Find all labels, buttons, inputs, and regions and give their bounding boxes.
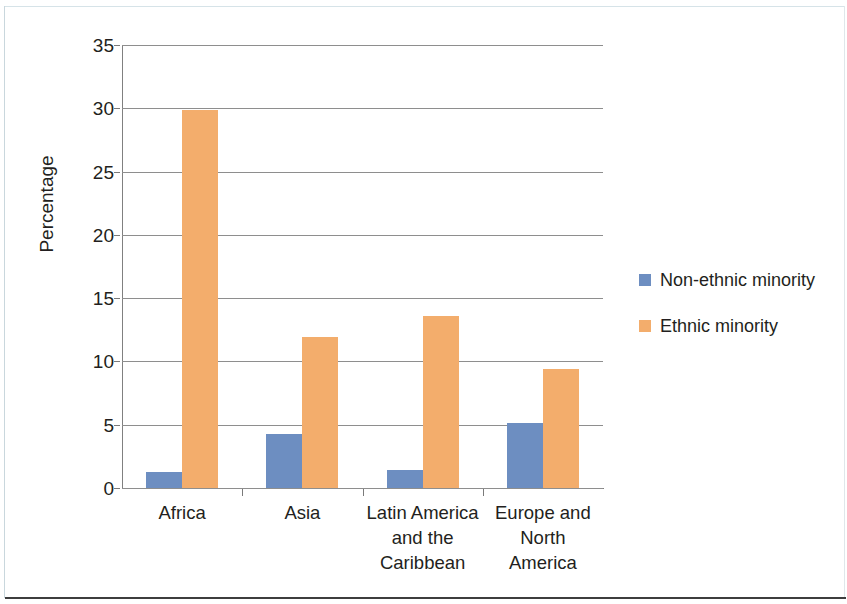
x-axis-category-label-line: North: [483, 525, 603, 550]
gridline: [122, 45, 603, 46]
x-axis-category-label-line: Africa: [122, 500, 242, 525]
x-axis-category-label-line: Latin America: [363, 500, 483, 525]
page-edge-right: [844, 6, 845, 598]
legend-label: Ethnic minority: [660, 316, 778, 337]
y-axis-tick-mark: [114, 298, 120, 299]
y-axis-tick-label: 0: [103, 479, 114, 498]
x-axis-category-label-line: and the: [363, 525, 483, 550]
bar: [543, 369, 579, 488]
legend-item: Ethnic minority: [639, 315, 839, 337]
x-axis-tick-mark: [363, 489, 364, 496]
x-axis-tick-mark: [483, 489, 484, 496]
bar: [182, 110, 218, 488]
y-axis-tick-mark: [114, 45, 120, 46]
y-axis-tick-label: 30: [93, 99, 114, 118]
bar: [302, 337, 338, 488]
y-axis-tick-mark: [114, 108, 120, 109]
x-axis-category-label-line: America: [483, 550, 603, 575]
legend-label: Non-ethnic minority: [660, 270, 815, 291]
x-axis-category-label: Asia: [242, 500, 362, 525]
bar: [423, 316, 459, 488]
plot-area: [122, 45, 603, 488]
x-axis-category-label: Europe andNorthAmerica: [483, 500, 603, 575]
y-axis-tick-label: 20: [93, 225, 114, 244]
x-axis-category-label-line: Asia: [242, 500, 362, 525]
page-edge-top: [5, 6, 845, 7]
x-axis-category-label: Latin Americaand theCaribbean: [363, 500, 483, 575]
y-axis-tick-mark: [114, 361, 120, 362]
y-axis-tick-label: 10: [93, 352, 114, 371]
y-axis-tick-label: 35: [93, 36, 114, 55]
x-axis-category-label-line: Caribbean: [363, 550, 483, 575]
y-axis-title: Percentage: [36, 134, 58, 274]
bar: [266, 434, 302, 488]
y-axis-tick-label: 25: [93, 162, 114, 181]
y-axis-tick-label: 5: [103, 415, 114, 434]
bar: [387, 470, 423, 488]
y-axis-tick-mark: [114, 425, 120, 426]
bar: [146, 472, 182, 488]
y-axis-tick-labels: 05101520253035: [60, 45, 114, 489]
y-axis-tick-label: 15: [93, 289, 114, 308]
x-axis-category-label-line: Europe and: [483, 500, 603, 525]
page-edge-bottom: [5, 597, 846, 599]
y-axis-tick-mark: [114, 172, 120, 173]
legend-swatch-icon: [639, 274, 651, 286]
x-axis-category-label: Africa: [122, 500, 242, 525]
legend-swatch-icon: [639, 320, 651, 332]
y-axis-tick-mark: [114, 488, 120, 489]
chart-page: Percentage 05101520253035 AfricaAsiaLati…: [0, 0, 847, 604]
x-axis-tick-mark: [242, 489, 243, 496]
chart-legend: Non-ethnic minorityEthnic minority: [639, 269, 839, 361]
page-edge-left: [4, 6, 5, 598]
legend-item: Non-ethnic minority: [639, 269, 839, 291]
y-axis-tick-mark: [114, 235, 120, 236]
bar: [507, 423, 543, 488]
